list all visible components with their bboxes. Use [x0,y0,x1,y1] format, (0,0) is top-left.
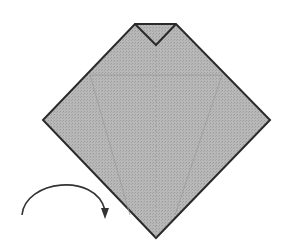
turn-over-arrow-icon [22,185,109,219]
diagram-canvas [0,0,298,246]
origami-diagram [0,0,298,246]
paper-diamond [43,24,270,238]
